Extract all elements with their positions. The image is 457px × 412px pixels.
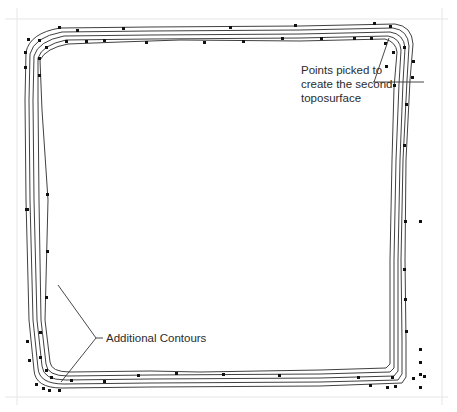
contour-diagram <box>0 0 457 412</box>
additional-contours-callout: Additional Contours <box>106 331 206 345</box>
points-picked-callout: Points picked to create the second topos… <box>301 63 392 105</box>
contours-callout-leader <box>58 285 103 382</box>
points-callout-line-2: create the second <box>301 77 392 91</box>
points-callout-line-3: toposurface <box>301 91 392 105</box>
contours-callout-text: Additional Contours <box>106 331 206 345</box>
points-callout-line-1: Points picked to <box>301 63 392 77</box>
